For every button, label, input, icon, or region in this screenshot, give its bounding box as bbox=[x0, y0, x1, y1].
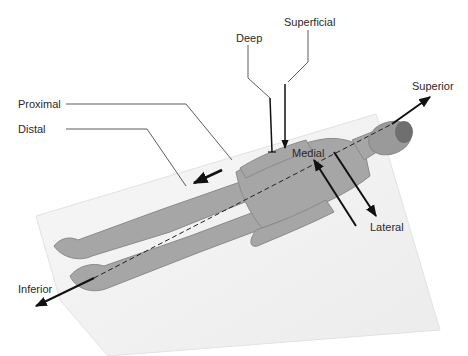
diagram: Deep Superficial Superior Proximal Dista… bbox=[0, 0, 468, 356]
label-proximal: Proximal bbox=[18, 99, 61, 110]
anatomy-illustration bbox=[0, 0, 468, 356]
label-superior: Superior bbox=[412, 81, 454, 92]
deep-leader bbox=[248, 45, 270, 98]
superior-arrow bbox=[392, 97, 430, 124]
label-lateral: Lateral bbox=[370, 222, 404, 233]
deep-arrow bbox=[270, 98, 272, 152]
superficial-leader bbox=[288, 30, 308, 82]
label-inferior: Inferior bbox=[18, 284, 52, 295]
label-medial: Medial bbox=[292, 148, 324, 159]
label-distal: Distal bbox=[18, 124, 46, 135]
label-superficial: Superficial bbox=[284, 17, 335, 28]
label-deep: Deep bbox=[236, 33, 262, 44]
